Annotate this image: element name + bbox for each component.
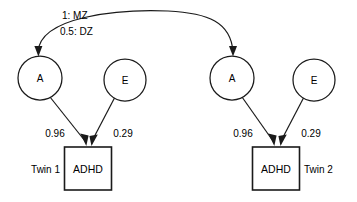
twin-2-coefficient-e: 0.29 (301, 128, 321, 139)
twin-1-edge-e (92, 97, 115, 141)
twin-2-latent-e-label: E (311, 75, 318, 86)
correlation-arrowhead-left (34, 46, 42, 57)
correlation-arrowhead-right (229, 46, 237, 57)
twin-2-path-e-to-adhd (278, 97, 304, 146)
correlation-label-dz: 0.5: DZ (60, 26, 93, 37)
twin-1-arrowhead-e (89, 135, 97, 147)
twin-1-coefficient-a: 0.96 (45, 128, 65, 139)
correlation-label-mz: 1: MZ (62, 10, 88, 21)
twin-2-arrowhead-e (278, 135, 286, 147)
twin-2-arrowhead-a (268, 134, 276, 147)
twin-1-arrowhead-a (80, 134, 88, 147)
twin-1-path-e-to-adhd (89, 97, 115, 146)
twin-1-latent-e-label: E (122, 75, 129, 86)
twin-2-path-a-to-adhd (242, 97, 277, 146)
twin-1-observed-label: ADHD (73, 163, 103, 175)
twin-2-group: A E 0.96 0.29 ADHD Twin 2 (210, 56, 335, 190)
twin-2-caption: Twin 2 (304, 164, 333, 175)
twin-2-coefficient-a: 0.96 (233, 128, 253, 139)
twin-1-group: A E 0.96 0.29 ADHD Twin 1 (18, 56, 146, 190)
twin-2-observed-label: ADHD (261, 163, 291, 175)
twin-1-caption: Twin 1 (31, 164, 60, 175)
twin-path-diagram: 1: MZ 0.5: DZ A E 0.96 0.29 (0, 0, 357, 202)
path-diagram-canvas: 1: MZ 0.5: DZ A E 0.96 0.29 (0, 0, 357, 202)
twin-1-latent-a-label: A (37, 73, 44, 84)
twin-2-latent-a-label: A (229, 73, 236, 84)
twin-1-coefficient-e: 0.29 (113, 128, 133, 139)
twin-1-path-a-to-adhd (50, 97, 89, 146)
